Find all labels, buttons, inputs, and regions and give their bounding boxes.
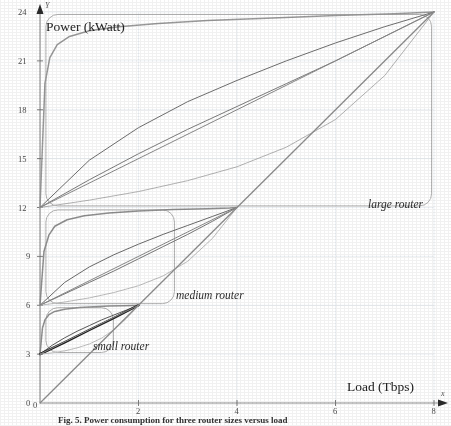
y-tick-label-24: 24 <box>18 8 27 17</box>
annotation-large-router: large router <box>368 199 423 211</box>
bracket-large-router <box>46 14 432 205</box>
x-tick-label-8: 8 <box>432 407 436 416</box>
y-tick-label-18: 18 <box>18 106 27 115</box>
annotation-small-router: small router <box>93 341 149 353</box>
y-tick-label-15: 15 <box>18 155 27 164</box>
y-tick-label-6: 6 <box>26 301 30 310</box>
y-tick-label-3: 3 <box>26 350 30 359</box>
y-tick-label-9: 9 <box>26 252 30 261</box>
group-brackets <box>46 14 432 352</box>
y-tick-label-12: 12 <box>18 204 27 213</box>
y-axis-arrow-letter: Y <box>45 2 49 10</box>
y-axis-title: Power (kWatt) <box>46 20 125 34</box>
y-tick-label-21: 21 <box>18 57 27 66</box>
annotation-medium-router: medium router <box>176 290 244 302</box>
figure-caption: Fig. 5. Power consumption for three rout… <box>58 416 287 425</box>
chart-canvas <box>0 0 451 426</box>
x-tick-label-0: 0 <box>33 401 37 410</box>
y-tick-label-0: 0 <box>26 399 30 408</box>
figure-container: 0369121518212402468 Power (kWatt) Load (… <box>0 0 451 426</box>
x-tick-label-6: 6 <box>333 407 337 416</box>
x-axis-title: Load (Tbps) <box>347 380 414 394</box>
x-axis-arrow-letter: x <box>441 390 445 398</box>
